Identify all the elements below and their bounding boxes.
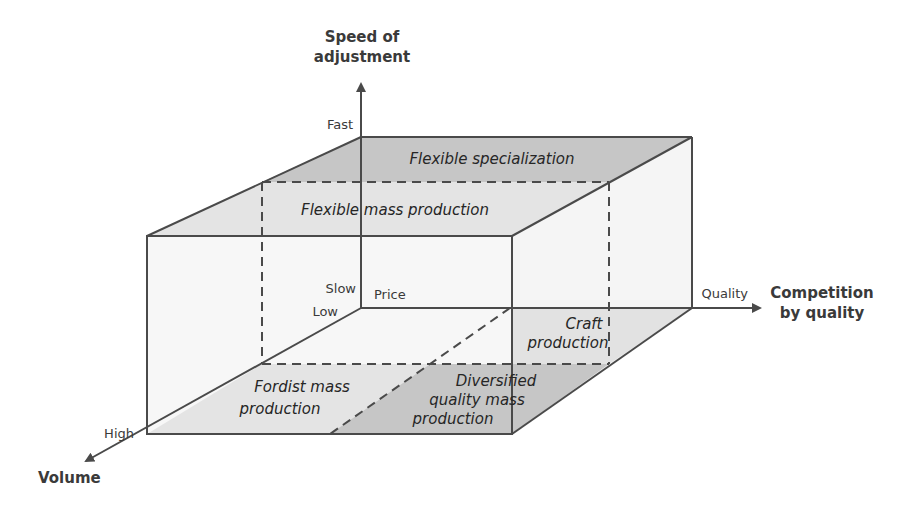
region-label-fordist-line2: production xyxy=(239,400,321,418)
depth-axis-low-label: Low xyxy=(312,304,338,319)
horizontal-axis-title-line2: by quality xyxy=(780,304,865,322)
production-models-cube-diagram: Speed of adjustment Fast Slow Competitio… xyxy=(0,0,905,509)
vertical-axis-title-line2: adjustment xyxy=(314,48,410,66)
region-label-fordist-line1: Fordist mass xyxy=(254,378,350,396)
horizontal-axis-low-label: Price xyxy=(374,287,406,302)
depth-axis-high-label: High xyxy=(104,426,134,441)
region-label-craft-line2: production xyxy=(527,334,609,352)
region-label-dqmp-line2: quality mass xyxy=(429,391,525,409)
region-label-dqmp-line3: production xyxy=(412,410,494,428)
region-label-craft-line1: Craft xyxy=(566,315,604,333)
region-label-flexible-mass-production: Flexible mass production xyxy=(301,201,489,219)
vertical-axis-low-label: Slow xyxy=(326,281,357,296)
region-label-flexible-specialization: Flexible specialization xyxy=(409,150,574,168)
horizontal-axis-title-line1: Competition xyxy=(770,284,873,302)
vertical-axis-title-line1: Speed of xyxy=(325,28,400,46)
horizontal-axis-high-label: Quality xyxy=(702,286,749,301)
vertical-axis-high-label: Fast xyxy=(327,117,353,132)
region-label-dqmp-line1: Diversified xyxy=(456,372,537,390)
depth-axis-title: Volume xyxy=(38,469,101,487)
